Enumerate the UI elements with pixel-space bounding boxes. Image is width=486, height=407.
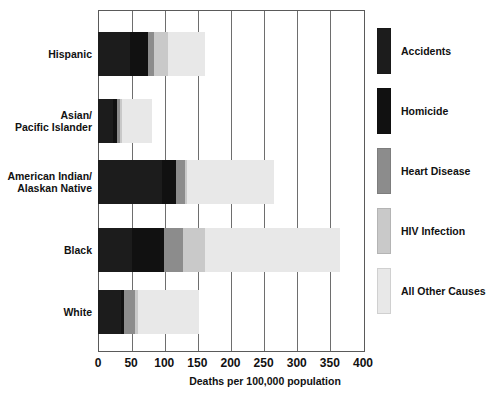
category-label: White: [63, 306, 92, 319]
category-label: American Indian/ Alaskan Native: [7, 170, 92, 195]
category-label: Black: [64, 244, 92, 257]
bar-segment: [98, 228, 132, 272]
bar-stack: [98, 228, 340, 272]
bar-segment: [138, 290, 199, 334]
bar-segment: [132, 228, 164, 272]
bar-segment: [154, 32, 169, 76]
bar-segment: [205, 228, 340, 272]
bar-segment: [98, 99, 113, 143]
bar-stack: [98, 160, 274, 204]
legend-swatch-icon: [377, 28, 391, 74]
bar-segment: [164, 228, 183, 272]
legend-swatch-icon: [377, 148, 391, 194]
legend-label: Homicide: [401, 105, 448, 117]
bar-segment: [98, 32, 130, 76]
bar-stack: [98, 290, 199, 334]
bar-stack: [98, 32, 205, 76]
legend-label: HIV Infection: [401, 225, 465, 237]
bar-segment: [122, 99, 152, 143]
bar-segment: [162, 160, 176, 204]
bar-segment: [176, 160, 185, 204]
x-tick-label: 400: [343, 356, 383, 370]
gridline: [330, 11, 331, 351]
gridline: [297, 11, 298, 351]
bar-segment: [98, 160, 162, 204]
bar-segment: [183, 228, 205, 272]
bar-stack: [98, 99, 152, 143]
category-label: Hispanic: [48, 48, 92, 61]
bar-segment: [130, 32, 149, 76]
legend-swatch-icon: [377, 88, 391, 134]
legend-swatch-icon: [377, 268, 391, 314]
legend-label: Heart Disease: [401, 165, 470, 177]
bar-segment: [168, 32, 204, 76]
bar-segment: [98, 290, 121, 334]
legend-swatch-icon: [377, 208, 391, 254]
legend-label: Accidents: [401, 45, 451, 57]
legend-label: All Other Causes: [401, 285, 486, 297]
bar-segment: [124, 290, 135, 334]
bar-segment: [187, 160, 273, 204]
x-axis-title: Deaths per 100,000 population: [0, 375, 484, 387]
category-label: Asian/ Pacific Islander: [15, 109, 92, 134]
